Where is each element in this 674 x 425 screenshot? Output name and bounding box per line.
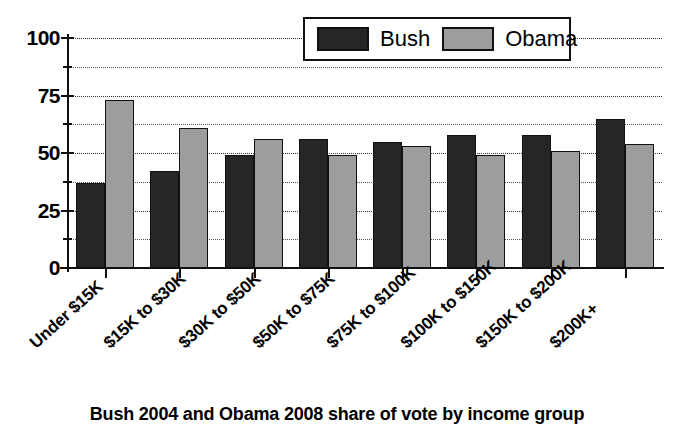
bar-obama	[402, 146, 431, 268]
y-axis-tick-mark	[61, 210, 74, 212]
y-axis-minor-tick-mark	[63, 66, 72, 68]
legend-swatch-bush	[317, 27, 369, 51]
bar-bush	[299, 139, 328, 268]
x-axis-category-label: $200K+	[546, 299, 603, 353]
y-axis-tick-mark	[61, 95, 74, 97]
x-axis-category-label: Under $15K	[26, 277, 107, 353]
chart-legend: BushObama	[303, 17, 571, 61]
bar-group	[365, 38, 439, 268]
bar-bush	[373, 142, 402, 269]
y-axis-tick-mark	[61, 152, 74, 154]
bar-obama	[625, 144, 654, 268]
y-axis-tick-mark	[61, 267, 74, 269]
bar-obama	[179, 128, 208, 268]
bar-group	[439, 38, 513, 268]
bar-bush	[522, 135, 551, 268]
y-axis-minor-tick-mark	[63, 238, 72, 240]
y-axis-tick-label: 50	[38, 141, 60, 165]
plot-area	[68, 38, 662, 268]
bar-bush	[596, 119, 625, 269]
y-axis-tick-labels: 0255075100	[0, 0, 60, 280]
bar-bush	[150, 171, 179, 268]
legend-swatch-obama	[442, 27, 494, 51]
bar-obama	[254, 139, 283, 268]
y-axis-tick-label: 100	[26, 26, 60, 50]
bar-obama	[105, 100, 134, 268]
legend-item-bush: Bush	[317, 26, 442, 52]
bar-group	[291, 38, 365, 268]
bar-bush	[76, 183, 105, 268]
bar-group	[217, 38, 291, 268]
bar-obama	[551, 151, 580, 268]
bar-bush	[225, 155, 254, 268]
bar-group	[588, 38, 662, 268]
legend-label-bush: Bush	[380, 26, 430, 52]
y-axis-tick-label: 25	[38, 199, 60, 223]
y-axis-tick-label: 75	[38, 84, 60, 108]
bar-group	[514, 38, 588, 268]
legend-item-obama: Obama	[442, 26, 589, 52]
bar-group	[142, 38, 216, 268]
x-axis-category-labels: Under $15K$15K to $30K$30K to $50K$50K t…	[0, 272, 674, 384]
legend-label-obama: Obama	[505, 26, 577, 52]
y-axis-minor-tick-mark	[63, 181, 72, 183]
y-axis-minor-tick-mark	[63, 123, 72, 125]
y-axis-tick-mark	[61, 37, 74, 39]
chart-caption: Bush 2004 and Obama 2008 share of vote b…	[0, 404, 674, 425]
bar-series-container	[68, 38, 662, 268]
bar-group	[68, 38, 142, 268]
bar-obama	[328, 155, 357, 268]
bar-bush	[447, 135, 476, 268]
bar-obama	[476, 155, 505, 268]
